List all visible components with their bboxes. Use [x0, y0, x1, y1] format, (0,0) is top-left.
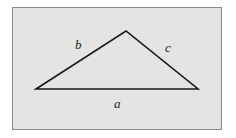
triangle-diagram [0, 0, 236, 138]
side-label-b: b [75, 38, 82, 51]
triangle [36, 31, 198, 89]
side-label-c: c [165, 41, 171, 54]
side-label-a: a [114, 97, 121, 110]
